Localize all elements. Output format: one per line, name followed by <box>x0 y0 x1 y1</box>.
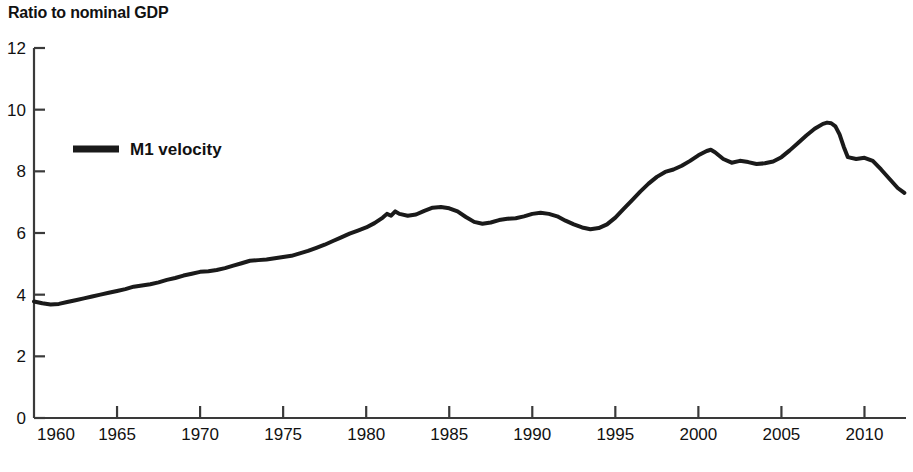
x-axis-tick-label: 1985 <box>430 425 468 444</box>
footer-caption-artifact <box>360 466 913 472</box>
x-axis-tick-label: 2000 <box>679 425 717 444</box>
x-axis-tick-label: 2005 <box>763 425 801 444</box>
y-axis-tick-label: 4 <box>17 286 26 305</box>
x-axis-tick-label: 1980 <box>347 425 385 444</box>
line-chart-plot: 024681012 196019651970197519801985199019… <box>0 0 913 472</box>
legend-label: M1 velocity <box>130 140 222 159</box>
x-axis-tick-label: 1990 <box>513 425 551 444</box>
y-axis-tick-label: 0 <box>17 409 26 428</box>
x-axis-tick-label: 1960 <box>37 425 75 444</box>
x-axis-ticks: 1960196519701975198019851990199520002005… <box>37 406 883 444</box>
chart-legend: M1 velocity <box>73 140 222 159</box>
y-axis-ticks: 024681012 <box>7 39 45 428</box>
y-axis-tick-label: 2 <box>17 347 26 366</box>
x-axis-tick-label: 1965 <box>98 425 136 444</box>
x-axis-tick-label: 2010 <box>846 425 884 444</box>
x-axis-tick-label: 1970 <box>181 425 219 444</box>
y-axis-tick-label: 6 <box>17 224 26 243</box>
x-axis-tick-label: 1995 <box>596 425 634 444</box>
y-axis-tick-label: 10 <box>7 101 26 120</box>
y-axis-tick-label: 12 <box>7 39 26 58</box>
chart-figure: Ratio to nominal GDP 024681012 196019651… <box>0 0 913 472</box>
x-axis-tick-label: 1975 <box>264 425 302 444</box>
y-axis-tick-label: 8 <box>17 162 26 181</box>
